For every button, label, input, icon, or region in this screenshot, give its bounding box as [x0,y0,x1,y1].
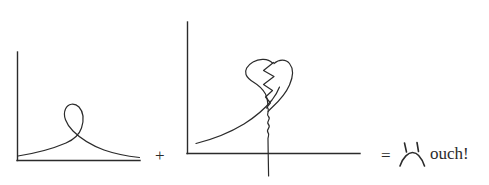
ouch-caption: ouch! [430,145,469,162]
plot-1 [17,52,140,161]
crack-descent-line [267,108,269,177]
plot-2 [187,22,360,176]
sad-face-frown-arc [400,153,425,167]
broken-heart-right-lobe [268,60,292,111]
figure-canvas: + = ouch! [0,0,489,185]
equals-operator: = [381,147,391,164]
sad-face-icon [400,143,425,167]
plus-operator: + [155,147,165,164]
sad-face-left-eye [405,143,407,152]
broken-heart-crack-zigzag [264,63,275,109]
sketch-svg [0,0,489,185]
plot-1-loop-curve [18,104,140,157]
sad-face-right-eye [417,143,419,152]
